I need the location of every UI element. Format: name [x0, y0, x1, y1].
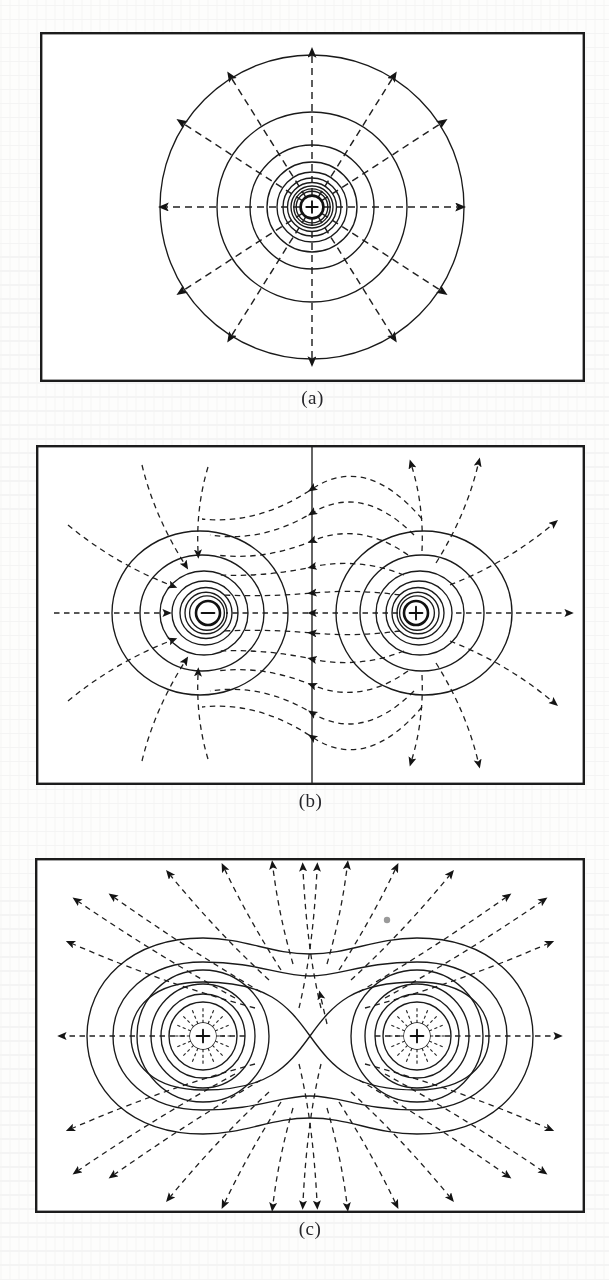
panel-c-charge-positive-right	[404, 1023, 430, 1049]
panel-c: (c)	[35, 858, 585, 1213]
panel-a-charge-positive	[301, 196, 324, 219]
panel-b-charge-positive	[404, 601, 428, 625]
panel-b-caption: (b)	[36, 790, 585, 812]
panel-c-caption: (c)	[35, 1218, 585, 1240]
panel-b-canvas	[36, 445, 585, 785]
panel-a-caption: (a)	[40, 387, 585, 409]
panel-a: (a)	[40, 32, 585, 382]
panel-a-canvas	[40, 32, 585, 382]
figure-page: (a)	[0, 0, 609, 1280]
panel-b-charge-negative	[196, 601, 220, 625]
panel-c-canvas	[35, 858, 585, 1213]
panel-c-charge-positive-left	[190, 1023, 216, 1049]
panel-b: (b)	[36, 445, 585, 785]
scan-speck	[384, 917, 390, 923]
panel-b-frame	[37, 446, 584, 784]
